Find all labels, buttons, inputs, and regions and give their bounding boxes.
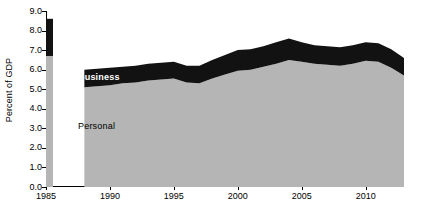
series-label-business: Business [78, 73, 120, 82]
y-axis-title: Percent of GDP [4, 20, 14, 160]
y-axis-tick-label: 1.0 [16, 163, 42, 172]
x-axis-tick-label: 2000 [218, 191, 258, 201]
chart-container: Percent of GDP 0.01.02.03.04.05.06.07.08… [0, 0, 423, 205]
x-axis-tick-label: 1990 [90, 191, 130, 201]
x-axis-tick-label: 1985 [26, 191, 66, 201]
plot-area [46, 11, 404, 187]
y-axis-tick-label: 2.0 [16, 143, 42, 152]
y-axis-tick-label: 9.0 [16, 7, 42, 16]
y-axis-tick-label: 8.0 [16, 26, 42, 35]
series-label-personal: Personal [78, 122, 115, 131]
bar-1985-business [46, 19, 53, 56]
x-axis-tick-label: 2010 [346, 191, 386, 201]
y-axis-tick-label: 4.0 [16, 104, 42, 113]
stacked-area-svg [46, 11, 404, 187]
y-axis-tick-label: 3.0 [16, 124, 42, 133]
x-axis-tick-label: 1995 [154, 191, 194, 201]
y-axis-tick-label: 5.0 [16, 85, 42, 94]
bar-1985-personal [46, 56, 53, 187]
y-axis-tick-labels: 0.01.02.03.04.05.06.07.08.09.0 [14, 0, 42, 195]
y-axis-tick-label: 6.0 [16, 65, 42, 74]
x-axis-tick-label: 2005 [282, 191, 322, 201]
y-axis-tick-label: 7.0 [16, 46, 42, 55]
